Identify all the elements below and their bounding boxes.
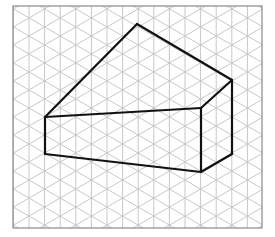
isometric-grid-diagram (0, 0, 275, 237)
